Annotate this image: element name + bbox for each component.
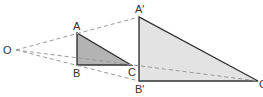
- label-c-prime: C′: [259, 78, 263, 90]
- label-o: O: [3, 44, 12, 56]
- label-c: C: [128, 66, 136, 78]
- label-a: A: [73, 20, 81, 32]
- label-b-prime: B′: [135, 83, 144, 95]
- large-triangle: [139, 17, 258, 81]
- dilation-diagram: O A B C A′ B′ C′: [0, 0, 263, 97]
- label-a-prime: A′: [135, 3, 144, 15]
- label-b: B: [73, 67, 80, 79]
- small-triangle: [77, 33, 131, 65]
